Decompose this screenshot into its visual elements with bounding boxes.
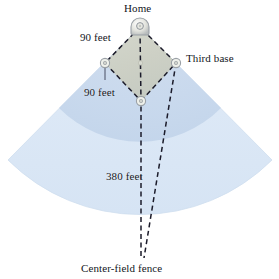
label-baseline-lower: 90 feet	[84, 86, 115, 98]
pitchers-mound-marker	[138, 61, 142, 65]
home-plate-marker	[131, 18, 149, 35]
label-center-field-distance: 380 feet	[106, 170, 143, 182]
label-baseline-upper: 90 feet	[80, 31, 111, 43]
base-marker-third	[100, 58, 109, 67]
label-third-base: Third base	[186, 52, 234, 64]
baseball-diamond-figure: Home 90 feet 90 feet Third base 380 feet…	[0, 0, 279, 279]
base-marker-second	[136, 96, 145, 105]
base-marker-first	[171, 58, 180, 67]
field-illustration	[0, 0, 279, 279]
label-home: Home	[124, 2, 151, 14]
label-center-field-fence: Center-field fence	[81, 262, 162, 274]
